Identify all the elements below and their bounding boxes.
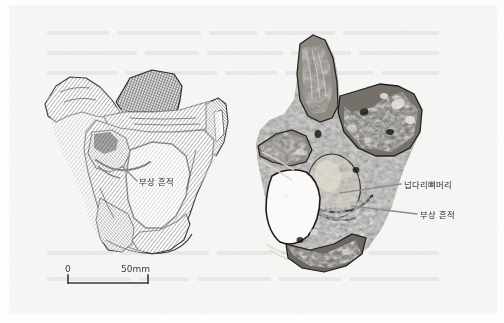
specimen-illustration-plate xyxy=(0,0,504,323)
label-left-injury-mark: 부상 흔적 xyxy=(139,178,174,186)
label-femoral-head: 넙다리뼈머리 xyxy=(404,181,453,189)
scale-bar-end-label: 50mm xyxy=(121,264,150,274)
right-specimen-photograph xyxy=(250,30,435,275)
left-specimen-drawing xyxy=(40,70,230,260)
label-right-injury-mark: 부상 흔적 xyxy=(420,211,455,219)
scale-bar-start-label: 0 xyxy=(65,264,71,274)
scale-bar-graphic xyxy=(68,275,148,283)
figure-page: 부상 흔적 넙다리뼈머리 부상 흔적 0 50mm xyxy=(0,0,504,323)
